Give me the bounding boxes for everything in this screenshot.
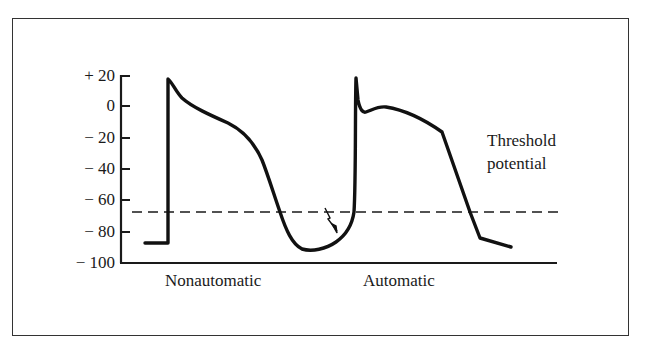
y-tick-label: − 80 — [45, 223, 115, 240]
threshold-annotation: Threshold potential — [487, 129, 556, 175]
y-tick-label: − 40 — [45, 160, 115, 177]
action-potential-curve — [145, 78, 511, 250]
y-tick-label: − 20 — [45, 129, 115, 146]
y-tick-label: + 20 — [45, 67, 115, 84]
y-ticks — [121, 76, 130, 232]
y-tick-label: − 60 — [45, 191, 115, 208]
y-tick-label: 0 — [45, 97, 115, 114]
threshold-label-line2: potential — [487, 152, 556, 175]
threshold-label-line1: Threshold — [487, 129, 556, 152]
automatic-label: Automatic — [363, 272, 435, 289]
nonautomatic-label: Nonautomatic — [165, 272, 261, 289]
y-tick-label: − 100 — [45, 254, 115, 271]
